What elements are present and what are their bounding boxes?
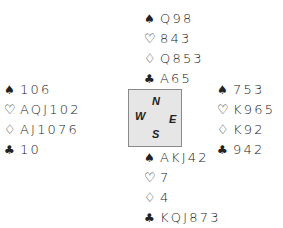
heart-icon: ♡ [144,29,160,49]
west-clubs-row: ♣ 10 [4,140,81,160]
north-clubs-row: ♣ A65 [144,69,204,89]
north-clubs-cards: A65 [160,69,192,89]
east-hearts-cards: K965 [233,100,275,120]
compass-east-label: E [169,113,176,125]
north-spades-cards: Q98 [160,9,193,29]
south-hand: ♠ AKJ42 ♡ 7 ♢ 4 ♣ KQJ873 [144,148,221,228]
club-icon: ♣ [4,140,20,160]
west-spades-row: ♠ 106 [4,80,81,100]
club-icon: ♣ [144,69,160,89]
east-clubs-cards: 942 [233,140,264,160]
north-diamonds-cards: Q853 [160,49,204,69]
east-spades-cards: 753 [233,80,264,100]
west-diamonds-row: ♢ AJ1076 [4,120,81,140]
compass-south-label: S [152,128,159,140]
spade-icon: ♠ [144,148,160,168]
east-clubs-row: ♣ 942 [217,140,275,160]
heart-icon: ♡ [217,100,233,120]
east-spades-row: ♠ 753 [217,80,275,100]
spade-icon: ♠ [217,80,233,100]
west-spades-cards: 106 [20,80,51,100]
west-hearts-cards: AQJ102 [20,100,81,120]
west-diamonds-cards: AJ1076 [20,120,79,140]
north-hand: ♠ Q98 ♡ 843 ♢ Q853 ♣ A65 [144,9,204,89]
diamond-icon: ♢ [217,120,233,140]
heart-icon: ♡ [144,168,160,188]
west-hearts-row: ♡ AQJ102 [4,100,81,120]
south-clubs-row: ♣ KQJ873 [144,208,221,228]
compass-north-label: N [152,95,160,107]
north-spades-row: ♠ Q98 [144,9,204,29]
diamond-icon: ♢ [4,120,20,140]
east-diamonds-row: ♢ K92 [217,120,275,140]
east-diamonds-cards: K92 [233,120,265,140]
club-icon: ♣ [144,208,160,228]
south-spades-cards: AKJ42 [160,148,209,168]
north-hearts-row: ♡ 843 [144,29,204,49]
south-hearts-cards: 7 [160,168,170,188]
north-hearts-cards: 843 [160,29,191,49]
south-diamonds-row: ♢ 4 [144,188,221,208]
spade-icon: ♠ [4,80,20,100]
west-hand: ♠ 106 ♡ AQJ102 ♢ AJ1076 ♣ 10 [4,80,81,160]
spade-icon: ♠ [144,9,160,29]
west-clubs-cards: 10 [20,140,41,160]
compass-west-label: W [135,110,145,122]
south-diamonds-cards: 4 [160,188,170,208]
east-hand: ♠ 753 ♡ K965 ♢ K92 ♣ 942 [217,80,275,160]
south-clubs-cards: KQJ873 [160,208,221,228]
diamond-icon: ♢ [144,188,160,208]
south-hearts-row: ♡ 7 [144,168,221,188]
compass-box: N W E S [128,89,182,147]
heart-icon: ♡ [4,100,20,120]
east-hearts-row: ♡ K965 [217,100,275,120]
diamond-icon: ♢ [144,49,160,69]
north-diamonds-row: ♢ Q853 [144,49,204,69]
south-spades-row: ♠ AKJ42 [144,148,221,168]
